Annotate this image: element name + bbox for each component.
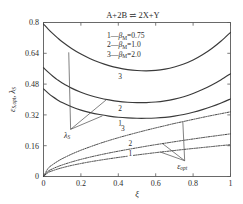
x-axis-title: ξ: [135, 189, 139, 199]
curve-tag-epsilon-1: 1: [129, 149, 133, 158]
y-tick-labels: 00.160.320.480.640.8: [25, 18, 39, 181]
curve-epsilon-3: [44, 112, 231, 177]
curve-tag-lambda-3: 3: [118, 72, 122, 81]
annotation-lambda-s: λS: [63, 131, 70, 141]
y-tick-label: 0.16: [25, 142, 39, 151]
curve-lambda-2: [44, 68, 231, 103]
x-tick-label: 0.6: [151, 179, 161, 188]
x-tick-label: 1: [229, 179, 233, 188]
curve-lambda-1: [44, 89, 231, 118]
legend-entry-1: 1—βM=0.75: [107, 31, 145, 41]
x-tick-label: 0: [42, 179, 46, 188]
chart-legend: 1—βM=0.752—βM=1.03—βM=2.0: [107, 31, 145, 59]
curve-tag-epsilon-3: 3: [121, 124, 125, 133]
leader-line-epsilon-opt: [183, 122, 185, 161]
legend-entry-3: 3—βM=2.0: [107, 50, 141, 60]
leader-line-lambda-s: [69, 52, 71, 129]
annotation-epsilon-opt: εopt: [177, 162, 188, 172]
x-tick-label: 0.4: [113, 179, 123, 188]
y-tick-label: 0: [35, 172, 39, 181]
curve-number-tags: 321321: [118, 72, 133, 157]
leader-line-lambda-s: [71, 116, 103, 129]
chart-figure: 00.160.320.480.640.8 00.20.40.60.81 3213…: [0, 0, 243, 204]
y-tick-label: 0.32: [25, 111, 39, 120]
leader-line-epsilon-opt: [162, 143, 184, 160]
chart-page: 00.160.320.480.640.8 00.20.40.60.81 3213…: [0, 0, 243, 204]
y-axis-title: εS,opt, λS: [7, 87, 18, 112]
chart-title: A+2B ⇌ 2X+Y: [106, 10, 160, 20]
y-tick-label: 0.8: [29, 18, 39, 27]
curve-tag-epsilon-2: 2: [129, 139, 133, 148]
leader-line-epsilon-opt: [160, 152, 184, 161]
curve-tag-lambda-2: 2: [118, 104, 122, 113]
legend-entry-2: 2—βM=1.0: [107, 40, 141, 50]
x-tick-label: 0.8: [188, 179, 198, 188]
y-tick-label: 0.64: [25, 49, 39, 58]
chart-annotations: λSεopt: [63, 52, 188, 171]
plot-title-text: A+2B ⇌ 2X+Y: [106, 10, 160, 20]
x-tick-label: 0.2: [76, 179, 86, 188]
curve-epsilon-1: [44, 145, 231, 177]
x-tick-labels: 00.20.40.60.81: [42, 179, 233, 188]
y-tick-label: 0.48: [25, 80, 39, 89]
